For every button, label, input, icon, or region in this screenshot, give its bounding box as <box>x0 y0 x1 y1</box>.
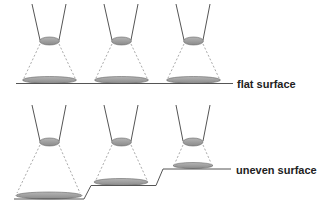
lens-icon <box>112 37 132 45</box>
lens-icon <box>40 138 60 146</box>
focus-spot <box>16 192 82 199</box>
lens-icon <box>112 138 132 146</box>
lens-unit-5 <box>94 105 148 186</box>
lens-icon <box>183 138 203 146</box>
focus-spot <box>94 179 148 186</box>
lens-unit-6 <box>173 105 213 169</box>
lens-icon <box>184 37 204 45</box>
uneven-surface-label: uneven surface <box>236 164 317 176</box>
lens-unit-3 <box>167 4 221 84</box>
lens-unit-4 <box>16 105 82 199</box>
flat-surface-label: flat surface <box>237 78 296 90</box>
lens-icon <box>40 37 60 45</box>
flat-row: flat surface <box>16 4 296 90</box>
focus-spot <box>167 77 221 84</box>
focus-spot <box>173 163 213 169</box>
uneven-row: uneven surface <box>14 105 317 199</box>
lens-unit-1 <box>23 4 77 84</box>
focus-spot <box>23 77 77 84</box>
lens-unit-2 <box>95 4 149 84</box>
focus-spot <box>95 77 149 84</box>
focus-diagram: flat surface <box>0 0 329 213</box>
